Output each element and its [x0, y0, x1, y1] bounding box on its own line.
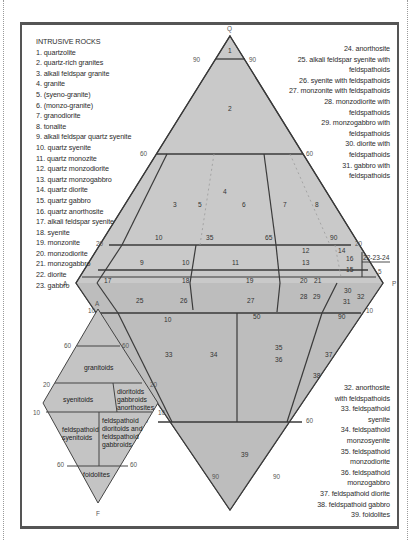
legend-item: 32. anorthosite	[317, 383, 390, 394]
legend-item: 38. feldspathoid gabbro	[317, 500, 390, 511]
legend-item: 7. granodiorite	[36, 111, 131, 122]
tick-p10: 10	[155, 234, 163, 241]
field-feldspathoid-dioritoids-4: gabbroids	[102, 441, 132, 449]
legend-intrusive-rocks: INTRUSIVE ROCKS 1. quartzolite 2. quartz…	[36, 37, 131, 291]
field-10: 10	[182, 259, 190, 266]
small-vertex-a: A	[95, 300, 100, 307]
field-39: 39	[241, 451, 249, 458]
legend-item: 14. quartz diorite	[36, 185, 131, 196]
legend-feldspathoid-rocks: 24. anorthosite 25. alkali feldspar syen…	[289, 44, 390, 182]
legend-item: 29. monzogabbro with	[289, 118, 390, 129]
field-feldspathoid-dioritoids-1: feldspathoid	[102, 417, 139, 425]
field-36: 36	[275, 356, 283, 363]
field-27: 27	[247, 297, 255, 304]
tick-f90-right: 90	[273, 473, 281, 480]
tick-p10-lower: 10	[164, 316, 172, 323]
legend-item: 26. syenite with feldspathoids	[289, 76, 390, 87]
legend-item: 31. gabbro with	[289, 161, 390, 172]
small-tick-60b-left: 60	[57, 461, 65, 468]
small-tick-60-left: 60	[64, 342, 72, 349]
field-35: 35	[275, 344, 283, 351]
field-7: 7	[283, 201, 287, 208]
field-19: 19	[246, 277, 254, 284]
legend-item: 20. monzodiorite	[36, 249, 131, 260]
field-feldspathoid-syenitoids-1: feldspathoid	[62, 426, 99, 434]
field-8: 8	[315, 201, 319, 208]
field-11: 11	[232, 259, 239, 266]
legend-item: 4. granite	[36, 79, 131, 90]
field-18: 18	[182, 277, 190, 284]
field-feldspathoid-dioritoids-3: feldspathoid	[102, 433, 139, 441]
legend-item: feldspathoids	[289, 150, 390, 161]
legend-item: 9. alkali feldspar quartz syenite	[36, 132, 131, 143]
field-28: 28	[300, 293, 308, 300]
legend-item: monzosyenite	[317, 436, 390, 447]
field-31: 31	[343, 298, 351, 305]
small-tick-10-right: 10	[158, 409, 166, 416]
legend-item: 16. quartz anorthosite	[36, 207, 131, 218]
legend-item: 22. diorite	[36, 270, 131, 281]
small-tick-20-left: 20	[43, 381, 51, 388]
legend-item: 37. feldspathoid diorite	[317, 489, 390, 500]
tick-p90: 90	[330, 234, 338, 241]
tick-p65: 65	[265, 234, 273, 241]
small-tick-60b-right: 60	[130, 461, 138, 468]
small-tick-60-right: 60	[122, 342, 130, 349]
tick-f90-left: 90	[212, 473, 220, 480]
legend-item: 5. (syeno-granite)	[36, 90, 131, 101]
legend-item: 2. quartz-rich granites	[36, 58, 131, 69]
field-9: 9	[140, 259, 144, 266]
field-20: 20	[300, 277, 308, 284]
legend-item: 12. quartz monzodiorite	[36, 164, 131, 175]
legend-item: 3. alkali feldspar granite	[36, 69, 131, 80]
tick-f10-left: 10	[88, 307, 96, 314]
field-gabbroids: gabbroids	[117, 396, 147, 404]
tick-p5: 5	[378, 268, 382, 275]
legend-item: 8. tonalite	[36, 122, 131, 133]
field-33: 33	[165, 351, 173, 358]
field-25: 25	[136, 297, 144, 304]
field-26: 26	[180, 297, 188, 304]
field-38: 38	[313, 372, 321, 379]
small-vertex-f: F	[96, 510, 100, 517]
field-anorthosites: anorthosites	[117, 404, 155, 411]
legend-feldspathoid-rocks-lower: 32. anorthosite with feldspathoids 33. f…	[317, 383, 390, 521]
legend-item: syenite	[317, 415, 390, 426]
field-37: 37	[325, 351, 333, 358]
legend-item: 25. alkali feldspar syenite with	[289, 55, 390, 66]
legend-item: 23. gabbro	[36, 281, 131, 292]
legend-item: 30. diorite with	[289, 139, 390, 150]
field-dioritoids: dioritoids	[117, 388, 145, 395]
tick-p90-lower: 90	[338, 313, 346, 320]
legend-item: 36. feldspathoid	[317, 468, 390, 479]
legend-item: 21. monzogabbro	[36, 259, 131, 270]
vertex-p: P	[392, 280, 396, 287]
legend-item: 39. foidolites	[317, 510, 390, 521]
field-15: 15	[346, 266, 354, 273]
field-syenitoids: syenitoids	[63, 396, 94, 404]
field-1: 1	[228, 47, 232, 54]
legend-item: feldspathoids	[289, 171, 390, 182]
tick-q60-left: 60	[140, 150, 148, 157]
field-3: 3	[173, 201, 177, 208]
field-4: 4	[223, 188, 227, 195]
legend-item: 13. quartz monzogabbro	[36, 175, 131, 186]
field-21: 21	[314, 277, 322, 284]
small-tick-10-left: 10	[33, 409, 41, 416]
field-30: 30	[344, 287, 352, 294]
field-6: 6	[242, 201, 246, 208]
legend-item: 11. quartz monozite	[36, 154, 131, 165]
field-foidolites: foidolites	[83, 471, 110, 478]
tick-p35: 35	[206, 234, 214, 241]
tick-q20-right: 20	[355, 240, 363, 247]
legend-item: 17. alkali feldspar syenite	[36, 217, 131, 228]
small-tick-20-right: 20	[150, 381, 158, 388]
field-14: 14	[338, 247, 346, 254]
legend-item: 18. syenite	[36, 228, 131, 239]
legend-item: 33. feldspathoid	[317, 404, 390, 415]
tick-q90-right: 90	[249, 56, 257, 63]
legend-item: 19. monzonite	[36, 238, 131, 249]
legend-item: 15. quartz gabbro	[36, 196, 131, 207]
field-29: 29	[313, 293, 321, 300]
field-2: 2	[228, 105, 232, 112]
